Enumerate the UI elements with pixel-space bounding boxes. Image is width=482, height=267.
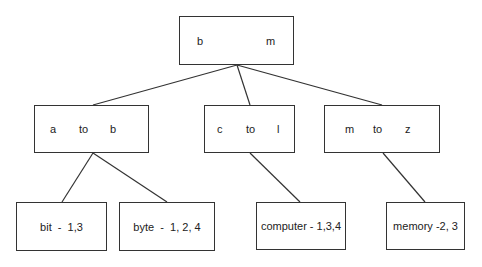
root-key-right: m — [266, 35, 275, 47]
root-key-left: b — [197, 35, 203, 47]
range-end: l — [277, 123, 279, 135]
edge-root-left — [93, 65, 237, 105]
node-m-to-z: m to z — [324, 105, 440, 153]
edge-root-right — [237, 65, 382, 105]
edge-left-byte — [93, 153, 167, 202]
leaf-bit: bit - 1,3 — [16, 202, 107, 251]
range-to: to — [373, 123, 382, 135]
node-a-to-b: a to b — [34, 105, 149, 153]
range-end: b — [110, 123, 116, 135]
edge-left-bit — [62, 153, 93, 202]
range-to: to — [79, 123, 88, 135]
edge-right-memory — [383, 153, 425, 202]
edge-middle-computer — [250, 153, 300, 202]
range-start: m — [345, 123, 354, 135]
leaf-label: byte - 1, 2, 4 — [133, 221, 200, 233]
leaf-label: bit - 1,3 — [40, 221, 83, 233]
leaf-memory: memory -2, 3 — [386, 202, 465, 250]
range-start: c — [217, 123, 223, 135]
leaf-byte: byte - 1, 2, 4 — [119, 202, 215, 251]
range-to: to — [246, 123, 255, 135]
leaf-label: computer - 1,3,4 — [261, 220, 341, 232]
leaf-computer: computer - 1,3,4 — [256, 202, 346, 250]
edge-root-middle — [237, 65, 250, 105]
range-end: z — [405, 123, 411, 135]
range-start: a — [50, 123, 56, 135]
node-c-to-l: c to l — [204, 105, 295, 153]
root-node: b m — [179, 16, 294, 65]
leaf-label: memory -2, 3 — [393, 220, 458, 232]
